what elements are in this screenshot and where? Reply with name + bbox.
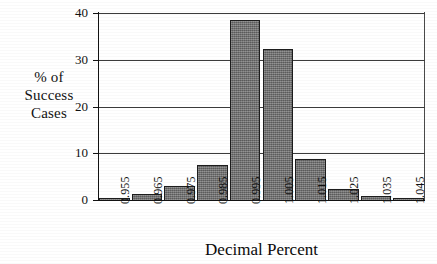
gridline-30	[98, 60, 425, 61]
y-tick-label-30: 30	[62, 53, 88, 66]
y-tick-label-10: 10	[62, 146, 88, 159]
gridline-40	[98, 13, 425, 14]
x-tick-label-1.045: 1.045	[414, 162, 437, 204]
y-tick-mark-30	[93, 60, 99, 61]
gridline-10	[98, 153, 425, 154]
y-tick-label-20: 20	[62, 100, 88, 113]
y-axis-title-line-1: % of	[6, 68, 92, 86]
y-tick-label-0: 0	[62, 193, 88, 206]
y-tick-mark-10	[93, 153, 99, 154]
y-tick-label-40: 40	[62, 6, 88, 19]
y-tick-mark-0	[93, 200, 99, 201]
histogram-figure: % of Success Cases 010203040 0.9550.9650…	[0, 0, 437, 264]
y-tick-mark-40	[93, 13, 99, 14]
gridline-20	[98, 107, 425, 108]
y-tick-mark-20	[93, 107, 99, 108]
x-axis-title: Decimal Percent	[98, 240, 425, 259]
